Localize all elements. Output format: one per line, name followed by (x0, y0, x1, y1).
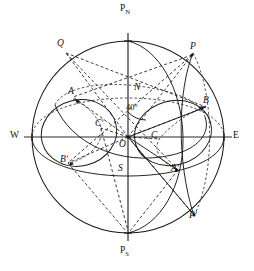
radius-O-to-C-prime (101, 128, 128, 137)
diurnal-circle-left (34, 92, 124, 174)
label-point-C: C (151, 131, 157, 141)
celestial-sphere-diagram: PN PS W E N S O P Pʹ Q A Aʹ B Bʹ C Cʹ 40… (0, 0, 254, 271)
label-south-pole: PS (120, 246, 129, 257)
label-point-A-left: A (68, 87, 74, 97)
point-marker-O (126, 135, 129, 138)
angle-arc-40 (128, 112, 146, 120)
label-west: W (10, 130, 19, 140)
label-star-P: P (190, 42, 196, 52)
equator-front-arc (55, 105, 206, 158)
label-point-B-right: B (203, 96, 209, 106)
label-south-point: S (118, 164, 123, 174)
label-point-A-prime: Aʹ (171, 164, 179, 174)
label-east: E (233, 130, 239, 140)
label-point-C-prime: Cʹ (95, 119, 103, 129)
solid-radius-O-to-B (128, 107, 206, 137)
label-north-point: N (134, 83, 140, 93)
label-angle-40-degrees: 40° (126, 104, 138, 112)
chord-Q-to-A-prime (66, 53, 178, 170)
dashed-A-prime-to-south-pole (130, 170, 178, 231)
point-marker-P (191, 54, 194, 57)
label-star-P-prime: Pʹ (189, 211, 197, 221)
label-north-pole: PN (120, 4, 130, 15)
label-point-B-prime: Bʹ (60, 155, 68, 165)
label-origin: O (119, 140, 126, 150)
radius-O-to-A (73, 97, 128, 137)
label-point-Q: Q (57, 39, 64, 49)
diagram-canvas (0, 0, 254, 271)
